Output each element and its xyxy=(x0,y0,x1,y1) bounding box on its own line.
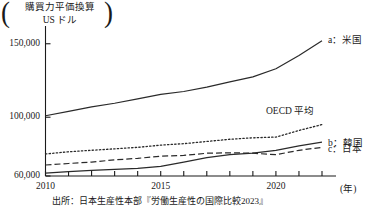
series-label-usa: a：米国 xyxy=(328,32,362,46)
x-axis-unit-label: (年) xyxy=(340,181,356,195)
plot-area xyxy=(0,0,373,206)
series-label-oecd: OECD 平均 xyxy=(266,103,314,117)
x-axis-tick-label: 2020 xyxy=(256,181,296,191)
series-line-korea xyxy=(46,142,323,173)
source-note: 出所：日本生産性本部『労働生産性の国際比較2023』 xyxy=(52,194,268,206)
axis-unit-title: 購買力平価換算 US ドル xyxy=(8,1,112,27)
y-axis-tick-label: 60,000 xyxy=(0,170,40,180)
x-axis-tick-label: 2010 xyxy=(26,181,66,191)
series-label-japan: c：日本 xyxy=(328,141,362,155)
x-axis-tick-label: 2015 xyxy=(141,181,181,191)
y-axis-tick-label: 100,000 xyxy=(0,111,40,121)
chart-figure: ( ) 購買力平価換算 US ドル 60,000100,000150,000 2… xyxy=(0,0,373,206)
unit-title-line-2: US ドル xyxy=(8,14,112,27)
unit-title-line-1: 購買力平価換算 xyxy=(8,1,112,14)
y-axis-tick-label: 150,000 xyxy=(0,38,40,48)
